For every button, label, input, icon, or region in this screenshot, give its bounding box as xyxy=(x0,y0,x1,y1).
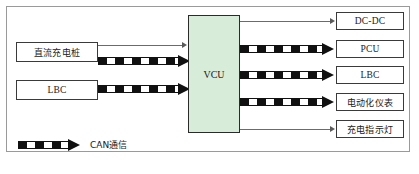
output-node-pcu: PCU xyxy=(336,40,404,58)
controller-node-vcu: VCU xyxy=(188,15,240,133)
connector-can-vcu-to-lbc xyxy=(240,71,334,79)
arrowhead-can xyxy=(322,96,334,108)
figure-canvas: 直流充电桩 LBC VCU DC-DC PCU LBC 电动化仪表 充电指示灯 xyxy=(0,0,419,174)
arrowhead-thin-charging-pile-to-vcu xyxy=(182,42,187,48)
can-shaft xyxy=(18,141,70,149)
arrowhead-can xyxy=(322,43,334,55)
connector-thin-vcu-to-charging-indicator xyxy=(240,129,330,130)
can-shaft xyxy=(240,45,324,53)
can-shaft xyxy=(98,57,180,65)
can-shaft xyxy=(240,71,324,79)
controller-label: VCU xyxy=(203,69,224,80)
output-node-lbc: LBC xyxy=(336,66,404,84)
connector-can-vcu-to-instrument-cluster xyxy=(240,98,334,106)
input-node-lbc: LBC xyxy=(16,80,98,100)
output-node-label: 充电指示灯 xyxy=(347,123,393,136)
input-node-label: LBC xyxy=(47,85,66,95)
can-shaft xyxy=(98,85,180,93)
output-node-dc-dc: DC-DC xyxy=(336,12,404,30)
connector-can-lbc-to-vcu xyxy=(98,85,190,93)
arrowhead-can xyxy=(322,69,334,81)
legend-can-arrow xyxy=(18,141,80,149)
connector-thin-vcu-to-dc-dc xyxy=(240,21,330,22)
output-node-label: 电动化仪表 xyxy=(347,96,393,109)
connector-thin-charging-pile-to-vcu xyxy=(98,45,182,46)
can-shaft xyxy=(240,98,324,106)
output-node-label: LBC xyxy=(360,70,379,80)
output-node-charging-indicator: 充电指示灯 xyxy=(336,120,404,138)
connector-can-vcu-to-pcu xyxy=(240,45,334,53)
legend-label: CAN通信 xyxy=(90,138,127,151)
arrowhead-thin-vcu-to-charging-indicator xyxy=(330,126,335,132)
output-node-instrument-cluster: 电动化仪表 xyxy=(336,93,404,111)
legend: CAN通信 xyxy=(18,138,127,151)
output-node-label: DC-DC xyxy=(355,16,386,26)
arrowhead-thin-vcu-to-dc-dc xyxy=(330,18,335,24)
legend-can-bus-icon xyxy=(18,141,80,149)
arrowhead-can xyxy=(68,139,80,151)
output-node-label: PCU xyxy=(360,44,379,54)
input-node-dc-charging-pile: 直流充电桩 xyxy=(16,42,98,62)
connector-can-charging-pile-to-vcu xyxy=(98,57,190,65)
input-node-label: 直流充电桩 xyxy=(34,46,80,59)
